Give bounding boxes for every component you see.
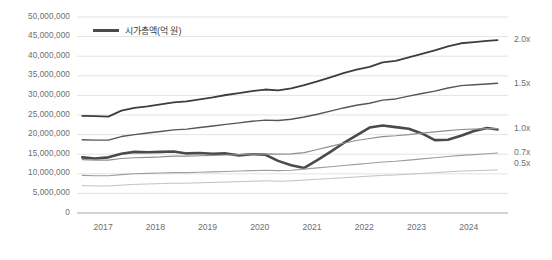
x-axis-tick-label: 2021 bbox=[287, 222, 337, 232]
gridlines bbox=[77, 17, 508, 213]
y-axis-tick-label: 35,000,000 bbox=[0, 70, 70, 79]
chart-plot-area bbox=[0, 0, 552, 260]
series-line-2.0x bbox=[82, 40, 497, 116]
y-axis-tick-label: 20,000,000 bbox=[0, 129, 70, 138]
multiplier-label-0.5x: 0.5x bbox=[514, 158, 530, 168]
series-line-0.35x bbox=[82, 170, 497, 186]
y-axis-tick-label: 30,000,000 bbox=[0, 90, 70, 99]
multiplier-label-1.5x: 1.5x bbox=[514, 78, 530, 88]
y-axis-tick-label: 25,000,000 bbox=[0, 110, 70, 119]
multiplier-label-2.0x: 2.0x bbox=[514, 34, 530, 44]
x-axis-tick-label: 2023 bbox=[392, 222, 442, 232]
x-axis-tick-label: 2017 bbox=[78, 222, 128, 232]
y-axis-tick-label: 10,000,000 bbox=[0, 168, 70, 177]
x-axis-tick-label: 2020 bbox=[235, 222, 285, 232]
multiplier-label-1.0x: 1.0x bbox=[514, 123, 530, 133]
y-axis-tick-label: 15,000,000 bbox=[0, 149, 70, 158]
market-cap-line-chart: 50,000,00045,000,00040,000,00035,000,000… bbox=[0, 0, 552, 260]
legend-label: 시가총액(억 원) bbox=[125, 24, 182, 37]
x-axis-tick-label: 2019 bbox=[183, 222, 233, 232]
y-axis-tick-label: 50,000,000 bbox=[0, 12, 70, 21]
y-axis-tick-label: 45,000,000 bbox=[0, 31, 70, 40]
series-lines bbox=[82, 40, 497, 186]
y-axis-tick-label: 5,000,000 bbox=[0, 188, 70, 197]
legend-line-swatch bbox=[93, 29, 119, 32]
y-axis-tick-label: 0 bbox=[0, 208, 70, 217]
x-axis-tick-label: 2024 bbox=[444, 222, 494, 232]
x-axis-tick-label: 2018 bbox=[130, 222, 180, 232]
y-axis-tick-label: 40,000,000 bbox=[0, 51, 70, 60]
x-axis-tick-label: 2022 bbox=[339, 222, 389, 232]
legend: 시가총액(억 원) bbox=[93, 24, 182, 37]
multiplier-label-0.7x: 0.7x bbox=[514, 147, 530, 157]
